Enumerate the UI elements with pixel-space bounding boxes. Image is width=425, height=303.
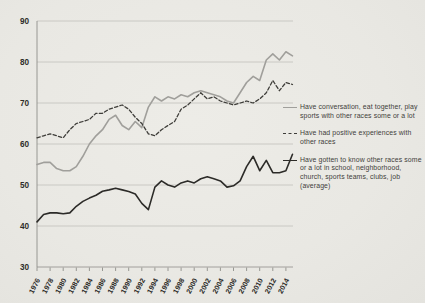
x-axis-labels: 1976197819801982198419861988199019921994… <box>27 277 291 295</box>
x-axis-label-1992: 1992 <box>132 277 147 295</box>
legend-label-gotten-to-know: Have gotten to know other races some or … <box>300 156 422 189</box>
y-axis-label-40: 40 <box>20 222 30 231</box>
x-axis-label-1978: 1978 <box>40 277 55 295</box>
x-axis-label-1982: 1982 <box>66 277 81 295</box>
x-axis-label-2002: 2002 <box>197 277 212 295</box>
x-axis-label-1976: 1976 <box>27 277 42 295</box>
dark-solid-line-swatch <box>283 160 297 161</box>
x-axis-label-1980: 1980 <box>53 277 68 295</box>
legend: Have conversation, eat together, play sp… <box>283 103 423 200</box>
legend-entry-positive-experiences: Have had positive experiences with other… <box>283 129 423 146</box>
x-axis-label-1994: 1994 <box>145 277 160 295</box>
series-line-conversation-eat-play-sports <box>37 52 293 171</box>
series-line-positive-experiences <box>37 81 293 138</box>
x-tick-marks <box>37 268 286 272</box>
dashed-line-swatch <box>283 133 297 134</box>
x-axis-label-2010: 2010 <box>250 277 265 295</box>
y-axis-label-80: 80 <box>20 58 30 67</box>
x-axis-label-1988: 1988 <box>105 277 120 295</box>
legend-label-conversation: Have conversation, eat together, play sp… <box>300 103 417 119</box>
y-axis-label-70: 70 <box>20 99 30 108</box>
x-axis-label-1986: 1986 <box>92 277 107 295</box>
y-axis-labels: 30405060708090 <box>20 17 30 272</box>
x-axis-label-2012: 2012 <box>263 277 278 295</box>
x-axis-label-1984: 1984 <box>79 277 94 295</box>
y-axis-label-30: 30 <box>20 263 30 272</box>
y-axis-label-90: 90 <box>20 17 30 26</box>
x-axis-label-2014: 2014 <box>276 277 291 295</box>
legend-entry-gotten-to-know: Have gotten to know other races some or … <box>283 156 423 191</box>
series-line-gotten-to-know-other-races <box>37 154 293 222</box>
x-axis-label-1998: 1998 <box>171 277 186 295</box>
gridlines <box>37 21 293 267</box>
x-axis-label-1996: 1996 <box>158 277 173 295</box>
x-axis-label-2004: 2004 <box>210 277 225 295</box>
y-axis-label-60: 60 <box>20 140 30 149</box>
x-axis-label-2006: 2006 <box>223 277 238 295</box>
y-axis-label-50: 50 <box>20 181 30 190</box>
x-axis-label-2008: 2008 <box>236 277 251 295</box>
series-lines <box>37 52 293 222</box>
x-axis-label-2000: 2000 <box>184 277 199 295</box>
x-axis-label-1990: 1990 <box>119 277 134 295</box>
legend-label-positive-experiences: Have had positive experiences with other… <box>300 129 411 145</box>
legend-entry-conversation: Have conversation, eat together, play sp… <box>283 103 423 120</box>
chart-page: 30405060708090 1976197819801982198419861… <box>0 0 425 303</box>
gray-solid-line-swatch <box>283 107 297 108</box>
